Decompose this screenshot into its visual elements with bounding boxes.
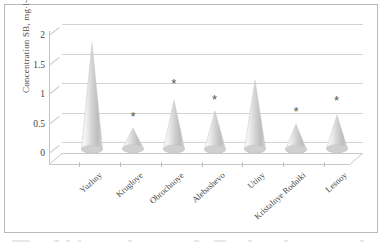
gridline xyxy=(62,83,363,84)
x-axis-tick xyxy=(79,162,80,167)
x-axis-tick xyxy=(161,162,162,167)
y-axis-tick-label: 1.5 xyxy=(33,60,45,70)
bar-cone xyxy=(162,100,185,153)
artifact-dash xyxy=(54,240,59,242)
artifact-dash xyxy=(66,240,70,242)
x-axis-label: Krugloye xyxy=(114,170,145,199)
significance-asterisk: * xyxy=(334,93,339,106)
artifact-dash xyxy=(128,240,132,242)
depth-connector xyxy=(49,116,60,125)
y-axis-title: Concentration SB, mg·l-1 xyxy=(21,0,31,109)
plot-area: 00.511.52 ***** xyxy=(49,31,363,163)
bar-cone xyxy=(81,43,104,153)
chart-frame: Concentration SB, mg·l-1 00.511.52 *****… xyxy=(4,4,378,233)
bar-cone xyxy=(325,115,348,153)
scan-artifact xyxy=(8,238,374,244)
artifact-dash xyxy=(360,240,364,242)
bar-cone xyxy=(203,111,226,153)
y-axis-tick-label: 2 xyxy=(40,30,45,40)
gridline xyxy=(62,54,363,55)
x-axis-label: Obrochnoye xyxy=(147,170,185,206)
x-axis-tick xyxy=(202,162,203,167)
x-axis-label: Utiny xyxy=(246,170,267,191)
artifact-dash xyxy=(248,240,252,242)
x-axis-tick xyxy=(324,162,325,167)
x-axis-label: Yuzhny xyxy=(78,170,104,195)
x-axis-label: Alebashevo xyxy=(189,170,226,205)
artifact-dash xyxy=(214,240,226,242)
x-axis-label: Lesnoy xyxy=(323,170,349,194)
gridline xyxy=(62,24,363,25)
significance-asterisk: * xyxy=(171,77,176,90)
depth-connector xyxy=(49,57,60,66)
bar-cone xyxy=(284,124,307,153)
artifact-dash xyxy=(194,240,199,242)
x-axis-tick xyxy=(120,162,121,167)
artifact-dash xyxy=(78,240,81,242)
y-axis-line xyxy=(49,31,50,163)
y-axis-tick-label: 1 xyxy=(40,89,45,99)
bar-cone xyxy=(121,128,144,153)
significance-asterisk: * xyxy=(131,110,136,123)
bar-cone xyxy=(244,80,267,153)
artifact-dash xyxy=(12,240,30,242)
y-axis-tick-label: 0 xyxy=(40,148,45,158)
depth-connector xyxy=(49,27,60,36)
artifact-dash xyxy=(284,240,288,242)
significance-asterisk: * xyxy=(212,92,217,105)
significance-asterisk: * xyxy=(293,104,298,117)
x-axis-labels: YuzhnyKrugloyeObrochnoyeAlebashevoUtinyK… xyxy=(49,168,363,230)
depth-connector xyxy=(49,86,60,95)
chart-floor xyxy=(49,153,363,164)
y-axis-tick-label: 0.5 xyxy=(33,119,45,129)
x-axis-tick xyxy=(242,162,243,167)
x-axis-tick xyxy=(283,162,284,167)
